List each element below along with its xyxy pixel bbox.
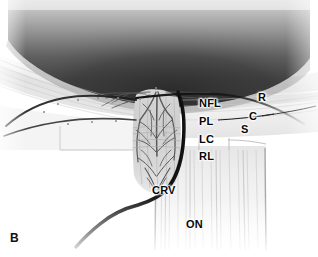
right-fade [286,0,318,257]
label-r: R [258,92,266,103]
label-crv: CRV [152,185,176,196]
top-fade [0,0,318,10]
label-on: ON [186,219,203,230]
label-nfl: NFL [199,98,221,109]
optic-nerve-head-illustration [0,0,318,257]
label-pl: PL [199,116,213,127]
figure-panel: NFL PL LC RL R C S CRV ON B [0,0,318,257]
left-fade [0,0,26,257]
label-c: C [249,111,257,122]
bottom-fade [0,196,318,257]
label-s: S [241,124,249,135]
label-lc: LC [199,134,214,145]
label-rl: RL [199,151,214,162]
panel-letter: B [10,232,19,244]
